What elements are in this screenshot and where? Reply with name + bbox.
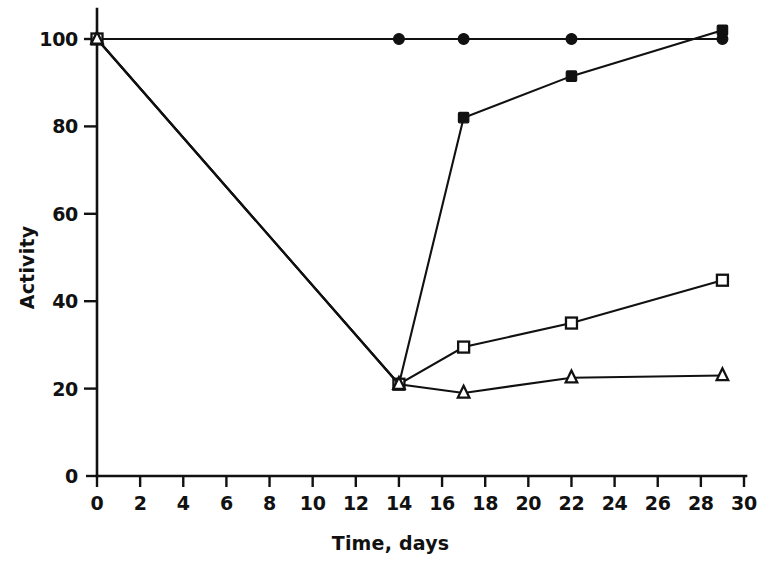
- marker-filled-circle-17: [458, 34, 469, 45]
- x-tick-label-8: 8: [263, 492, 276, 514]
- data-series-layer: [91, 25, 728, 398]
- series-filled-square: [92, 25, 728, 389]
- x-axis-title: Time, days: [332, 532, 450, 554]
- x-axis-ticks: [97, 476, 744, 487]
- marker-open-triangle-17: [458, 386, 470, 398]
- marker-filled-circle-14: [394, 34, 405, 45]
- x-tick-label-26: 26: [645, 492, 671, 514]
- y-tick-label-20: 20: [52, 378, 78, 400]
- x-tick-label-20: 20: [515, 492, 541, 514]
- y-axis-title: Activity: [16, 225, 38, 309]
- x-tick-label-6: 6: [220, 492, 233, 514]
- x-tick-label-0: 0: [91, 492, 104, 514]
- y-tick-label-0: 0: [65, 465, 78, 487]
- x-axis-tick-labels: 024681012141618202224262830: [91, 492, 757, 514]
- series-line-open-square: [97, 39, 722, 384]
- series-line-filled-square: [97, 30, 722, 384]
- y-tick-label-80: 80: [52, 115, 78, 137]
- marker-open-triangle-22: [566, 371, 578, 383]
- y-tick-label-100: 100: [39, 28, 78, 50]
- marker-open-square-22: [566, 318, 577, 329]
- activity-vs-time-line-chart: 024681012141618202224262830 020406080100…: [0, 0, 766, 572]
- y-axis-tick-labels: 020406080100: [39, 28, 78, 487]
- x-tick-label-24: 24: [602, 492, 628, 514]
- marker-open-square-29: [717, 275, 728, 286]
- x-tick-label-28: 28: [688, 492, 714, 514]
- x-tick-label-10: 10: [300, 492, 326, 514]
- marker-open-triangle-29: [717, 368, 729, 380]
- x-tick-label-12: 12: [343, 492, 369, 514]
- chart-figure: 024681012141618202224262830 020406080100…: [0, 0, 766, 572]
- x-tick-label-16: 16: [429, 492, 455, 514]
- marker-filled-circle-22: [566, 34, 577, 45]
- y-tick-label-40: 40: [52, 290, 78, 312]
- series-filled-circle: [92, 34, 728, 45]
- axes-group: [97, 9, 746, 476]
- x-tick-label-4: 4: [177, 492, 190, 514]
- x-tick-label-2: 2: [134, 492, 147, 514]
- y-tick-label-60: 60: [52, 203, 78, 225]
- x-tick-label-18: 18: [472, 492, 498, 514]
- marker-open-square-17: [458, 342, 469, 353]
- x-tick-label-30: 30: [731, 492, 757, 514]
- x-tick-label-22: 22: [559, 492, 585, 514]
- marker-filled-square-22: [566, 71, 576, 81]
- marker-filled-square-29: [717, 25, 727, 35]
- marker-filled-square-17: [458, 112, 468, 122]
- x-tick-label-14: 14: [386, 492, 412, 514]
